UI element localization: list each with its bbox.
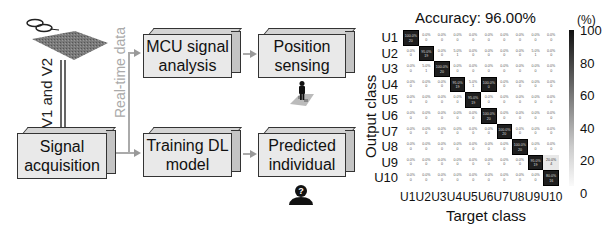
arrow-icon (134, 49, 141, 57)
matrix-cell: 0.0%0 (528, 30, 544, 46)
matrix-cell: 0.0%0 (434, 92, 450, 108)
matrix-cell: 0.0%0 (512, 92, 528, 108)
matrix-cell: 0.0%0 (450, 124, 466, 140)
column-label: U7 (494, 190, 509, 204)
matrix-cell: 0.0%0 (497, 155, 513, 171)
x-axis-label: Target class (446, 207, 526, 224)
matrix-cell: 0.0%0 (419, 124, 435, 140)
predicted-individual-label: Predicted individual (258, 133, 346, 177)
realtime-data-label: Real-time data (112, 27, 128, 118)
matrix-cell: 0.0%0 (419, 77, 435, 93)
matrix-cell: 0.0%0 (465, 30, 481, 46)
signal-acquisition-label: Signal acquisition (17, 133, 107, 179)
matrix-cell: 0.0%0 (543, 30, 559, 46)
matrix-cell: 0.0%0 (450, 155, 466, 171)
matrix-cell: 0.0%0 (512, 30, 528, 46)
colorbar (569, 30, 574, 186)
matrix-cell: 0.0%0 (419, 139, 435, 155)
matrix-cell: 0.0%0 (543, 139, 559, 155)
person-on-grid-icon (288, 80, 316, 108)
matrix-cell: 0.0%0 (543, 92, 559, 108)
matrix-cell: 100.0%20 (403, 30, 419, 46)
matrix-cell: 0.0%0 (528, 139, 544, 155)
predicted-individual-box: Predicted individual (258, 127, 355, 177)
matrix-cell: 0.0%0 (481, 170, 497, 186)
matrix-cell: 100.0%20 (497, 124, 513, 140)
matrix-cell: 0.0%0 (543, 61, 559, 77)
matrix-cell: 0.0%0 (497, 139, 513, 155)
row-label: U8 (368, 139, 398, 154)
row-label: U3 (368, 61, 398, 76)
matrix-cell: 0.0%0 (481, 46, 497, 62)
matrix-cell: 0.0%0 (543, 124, 559, 140)
matrix-cell: 0.0%0 (403, 61, 419, 77)
row-label: U2 (368, 46, 398, 61)
colorbar-tick: 0 (580, 186, 587, 201)
matrix-cell: 0.0%0 (403, 77, 419, 93)
matrix-cell: 0.0%0 (497, 170, 513, 186)
signal-acquisition-box: Signal acquisition (17, 127, 116, 179)
matrix-cell: 0.0%0 (497, 61, 513, 77)
matrix-cell: 0.0%0 (465, 61, 481, 77)
matrix-cell: 0.0%0 (512, 77, 528, 93)
training-dl-model-label: Training DL model (143, 133, 232, 177)
colorbar-tick: 40 (580, 121, 594, 136)
matrix-cell: 0.0%0 (543, 108, 559, 124)
matrix-cell: 0.0%0 (450, 61, 466, 77)
training-dl-model-box: Training DL model (143, 127, 241, 177)
matrix-cell: 0.0%0 (481, 155, 497, 171)
matrix-cell: 0.0%0 (528, 124, 544, 140)
matrix-cell: 0.0%0 (512, 124, 528, 140)
matrix-cell: 0.0%0 (465, 139, 481, 155)
matrix-cell: 0.0%0 (403, 46, 419, 62)
matrix-cell: 0.0%0 (419, 30, 435, 46)
row-label: U1 (368, 30, 398, 45)
matrix-cell: 0.0%0 (419, 108, 435, 124)
matrix-cell: 0.0%0 (497, 108, 513, 124)
matrix-cell: 0.0%0 (528, 170, 544, 186)
matrix-cell: 0.0%0 (403, 92, 419, 108)
matrix-cell: 95.0%19 (528, 155, 544, 171)
matrix-cell: 100.0%20 (512, 139, 528, 155)
matrix-cell: 0.0%0 (528, 108, 544, 124)
colorbar-tick: 20 (580, 153, 594, 168)
matrix-cell: 95.0%19 (450, 77, 466, 93)
matrix-cell: 5.0%1 (450, 46, 466, 62)
row-label: U9 (368, 155, 398, 170)
matrix-cell: 0.0%0 (465, 124, 481, 140)
column-label: U3 (431, 190, 446, 204)
matrix-cell: 0.0%0 (403, 108, 419, 124)
colorbar-tick: 100 (580, 23, 602, 38)
row-label: U10 (368, 170, 398, 185)
column-label: U8 (509, 190, 524, 204)
matrix-cell: 0.0%0 (512, 61, 528, 77)
matrix-cell: 5.0%1 (465, 77, 481, 93)
matrix-cell: 20.0%4 (543, 155, 559, 171)
column-label: U2 (416, 190, 431, 204)
matrix-cell: 0.0%0 (465, 46, 481, 62)
column-label: U5 (462, 190, 477, 204)
arrow-icon (134, 149, 141, 157)
matrix-cell: 0.0%0 (512, 108, 528, 124)
row-label: U5 (368, 92, 398, 107)
column-label: U9 (525, 190, 540, 204)
matrix-cell: 0.0%0 (528, 61, 544, 77)
matrix-cell: 0.0%0 (450, 92, 466, 108)
colorbar-tick: 80 (580, 56, 594, 71)
mcu-signal-analysis-label: MCU signal analysis (143, 34, 232, 78)
chart-title: Accuracy: 96.00% (415, 9, 536, 26)
matrix-cell: 0.0%0 (481, 30, 497, 46)
matrix-cell: 0.0%0 (434, 30, 450, 46)
matrix-cell: 0.0%0 (497, 77, 513, 93)
matrix-cell: 0.0%0 (497, 30, 513, 46)
matrix-cell: 0.0%0 (434, 139, 450, 155)
matrix-cell: 0.0%0 (434, 77, 450, 93)
matrix-cell: 0.0%0 (450, 108, 466, 124)
matrix-cell: 0.0%0 (465, 108, 481, 124)
matrix-cell: 0.0%0 (497, 46, 513, 62)
matrix-cell: 0.0%0 (419, 92, 435, 108)
matrix-cell: 0.0%0 (481, 61, 497, 77)
matrix-cell: 0.0%0 (403, 170, 419, 186)
matrix-cell: 0.0%0 (434, 124, 450, 140)
position-sensing-box: Position sensing (258, 28, 355, 78)
